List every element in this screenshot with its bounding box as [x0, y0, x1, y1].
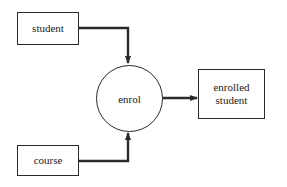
node-student-label: student — [32, 22, 64, 35]
node-enrol-label: enrol — [118, 93, 141, 105]
node-course: course — [17, 145, 79, 176]
node-enrol: enrol — [96, 65, 163, 132]
node-student: student — [17, 12, 79, 45]
node-enrolled-student: enrolled student — [198, 69, 265, 119]
node-enrolled-student-label: enrolled student — [213, 81, 249, 107]
edge-course-to-enrol — [78, 133, 128, 161]
edge-student-to-enrol — [78, 28, 128, 63]
node-course-label: course — [34, 154, 63, 167]
